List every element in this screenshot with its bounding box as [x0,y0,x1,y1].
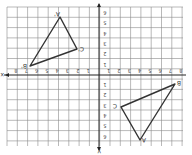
vertex-label: C' [78,46,84,53]
x-tick-label: 1 [107,68,110,74]
coordinate-plane: x y 8765432112345678 654321123456 A'C'B'… [0,0,192,155]
triangle-preimage [121,84,175,140]
y-tick-label: 1 [103,82,106,88]
y-tick-label: 6 [103,134,106,140]
x-tick-label: 5 [45,68,48,74]
y-tick-label: 5 [103,123,106,129]
y-axis-label: y [97,148,101,155]
y-tick-label: 4 [103,31,106,37]
vertex-label: B [177,80,181,87]
x-tick-label: 4 [138,68,141,74]
graph-svg: x y 8765432112345678 654321123456 A'C'B'… [0,0,192,155]
y-tick-label: 4 [103,113,106,119]
y-axis-arrow-top-icon [97,3,101,7]
y-tick-label: 2 [103,92,106,98]
y-tick-label: 3 [103,41,106,47]
x-tick-label: 7 [169,68,172,74]
y-tick-label: 3 [103,103,106,109]
x-tick-label: 1 [87,68,90,74]
x-tick-label: 3 [128,68,131,74]
y-tick-label: 2 [103,51,106,57]
x-tick-label: 4 [56,68,59,74]
x-tick-label: 3 [66,68,69,74]
x-tick-label: 5 [148,68,151,74]
x-tick-label: 8 [14,68,17,74]
y-tick-label: 5 [103,20,106,26]
x-tick-label: 2 [76,68,79,74]
y-tick-label: 1 [103,62,106,68]
vertex-label: A' [54,11,60,18]
x-tick-label: 2 [117,68,120,74]
vertex-label: B' [21,63,27,70]
x-axis-label: x [0,72,4,79]
x-tick-label: 6 [35,68,38,74]
grid-lines [7,7,183,146]
x-tick-label: 6 [159,68,162,74]
y-tick-label: 6 [103,10,106,16]
vertex-label: C [113,103,117,110]
x-tick-label: 8 [179,68,182,74]
triangles: A'C'B'BCA [21,11,181,144]
